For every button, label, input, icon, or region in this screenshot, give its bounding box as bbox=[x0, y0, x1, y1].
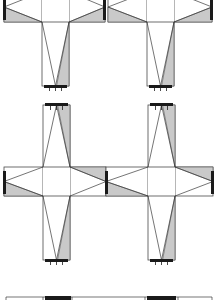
cross-top-right-right-cap bbox=[210, 0, 213, 20]
cross-mid-right-center bbox=[148, 167, 175, 196]
cross-mid-left-center bbox=[43, 167, 70, 196]
cross-top-right-center bbox=[147, 0, 174, 22]
cross-mid-left-left-cap bbox=[3, 171, 6, 194]
stem-mid-right-lower-stem-cap bbox=[150, 259, 173, 262]
cross-mid-left-stem-cap bbox=[45, 103, 68, 106]
cross-top-right-stem-cap bbox=[149, 85, 172, 88]
cross-joint-diagram bbox=[0, 0, 216, 300]
cross-mid-right-right-cap bbox=[211, 171, 214, 194]
bottom-row-cap-0 bbox=[45, 296, 71, 300]
cross-mid-right-left-cap bbox=[105, 171, 108, 194]
cross-top-left-left-cap bbox=[3, 0, 6, 20]
cross-top-left-center bbox=[42, 0, 69, 22]
cross-mid-right-stem-cap bbox=[150, 103, 173, 106]
cross-top-left-right-cap bbox=[103, 0, 106, 20]
bottom-row-cap-1 bbox=[147, 296, 176, 300]
stem-mid-left-lower-stem-cap bbox=[45, 259, 68, 262]
cross-top-left-stem-cap bbox=[44, 85, 67, 88]
